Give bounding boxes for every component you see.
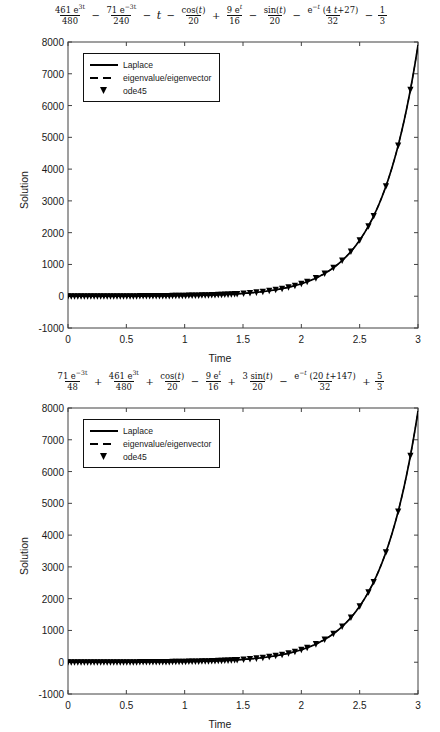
y-tick-label: 0 [22,291,64,302]
legend-label: Laplace [119,426,153,436]
legend-label: Laplace [119,60,153,70]
plot-axes [0,366,440,732]
y-tick-label: 6000 [22,466,64,477]
y-tick-label: 1000 [22,625,64,636]
series-marker-ode45 [383,183,389,190]
y-tick-label: 5000 [22,498,64,509]
figure-2-plot: -100001000200030004000500060007000800000… [0,366,440,732]
y-axis-label: Solution [18,537,30,575]
legend-key-solid [89,58,119,71]
y-tick-label: 7000 [22,68,64,79]
x-axis-label: Time [0,352,440,364]
series-marker-ode45 [407,87,413,94]
y-tick-label: 8000 [22,37,64,48]
x-tick-label: 2.5 [345,334,375,345]
x-tick-label: 0 [53,700,83,711]
figure-1-plot: -100001000200030004000500060007000800000… [0,0,440,366]
y-tick-label: 6000 [22,100,64,111]
y-axis-label: Solution [18,171,30,209]
x-tick-label: 0.5 [111,334,141,345]
x-tick-label: 3 [403,334,433,345]
series-marker-ode45 [383,549,389,556]
legend-label: ode45 [119,86,147,96]
y-tick-label: 1000 [22,259,64,270]
series-marker-ode45 [395,509,401,516]
x-axis-label: Time [0,718,440,730]
legend-key-dashed [89,437,119,450]
plot-legend: Laplaceeigenvalue/eigenvectorode45 [83,53,220,102]
legend-item[interactable]: eigenvalue/eigenvector [89,437,213,450]
legend-item[interactable]: ode45 [89,450,213,463]
legend-key-solid [89,424,119,437]
y-tick-label: 7000 [22,434,64,445]
x-tick-label: 0 [53,334,83,345]
figure-panel-1: 461 e3t480−71 e−3t240−t−cos(t)20+9 et16−… [0,0,440,366]
legend-label: ode45 [119,452,147,462]
y-tick-label: -1000 [22,323,64,334]
series-marker-ode45 [395,143,401,150]
figure-panel-2: 71 e−3t48+461 e3t480+cos(t)20−9 et16+3 s… [0,366,440,732]
x-tick-label: 1.5 [228,334,258,345]
x-tick-label: 2.5 [345,700,375,711]
x-tick-label: 2 [286,334,316,345]
series-marker-ode45 [330,265,336,272]
y-tick-label: -1000 [22,689,64,700]
plot-axes [0,0,440,366]
legend-label: eigenvalue/eigenvector [119,73,211,83]
y-tick-label: 0 [22,657,64,668]
legend-item[interactable]: Laplace [89,424,213,437]
x-tick-label: 3 [403,700,433,711]
plot-legend: Laplaceeigenvalue/eigenvectorode45 [83,419,220,468]
x-tick-label: 1 [170,700,200,711]
legend-item[interactable]: Laplace [89,58,213,71]
x-tick-label: 2 [286,700,316,711]
y-tick-label: 8000 [22,403,64,414]
x-tick-label: 1.5 [228,700,258,711]
series-marker-ode45 [330,631,336,638]
legend-label: eigenvalue/eigenvector [119,439,211,449]
series-marker-ode45 [407,453,413,460]
y-tick-label: 2000 [22,227,64,238]
legend-item[interactable]: eigenvalue/eigenvector [89,71,213,84]
x-tick-label: 0.5 [111,700,141,711]
legend-key-marker [89,450,119,463]
y-tick-label: 2000 [22,593,64,604]
y-tick-label: 5000 [22,132,64,143]
legend-item[interactable]: ode45 [89,84,213,97]
legend-key-dashed [89,71,119,84]
legend-key-marker [89,84,119,97]
figure-page: 461 e3t480−71 e−3t240−t−cos(t)20+9 et16−… [0,0,440,732]
x-tick-label: 1 [170,334,200,345]
